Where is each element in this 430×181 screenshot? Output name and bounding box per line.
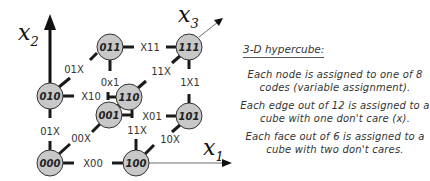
edge-label-110-111: 11X — [151, 66, 171, 77]
svg-text:001: 001 — [99, 110, 120, 121]
svg-text:011: 011 — [100, 42, 121, 53]
edge-label-101-111: 1X1 — [180, 77, 200, 88]
notes-panel: 3-D hypercube: Each node is assigned to … — [240, 38, 430, 156]
svg-text:010: 010 — [40, 91, 61, 102]
x3-arrow-icon — [214, 18, 223, 26]
edge-label-000-001: 00X — [71, 133, 91, 144]
edge-label-001-101: X01 — [142, 111, 162, 122]
x1-axis-label: x1 — [203, 135, 224, 164]
x2-axis: x2 — [18, 14, 56, 83]
edge-label-100-110: 11X — [127, 125, 147, 136]
svg-text:110: 110 — [119, 92, 140, 103]
note-edges: Each edge out of 12 is assigned to a cub… — [240, 99, 430, 125]
node-100: 100 — [123, 150, 149, 176]
node-111: 111 — [176, 34, 202, 60]
x2-axis-label: x2 — [18, 20, 39, 49]
edge-label-001-011: 0x1 — [101, 77, 120, 88]
edge-label-010-011: 01X — [64, 64, 84, 75]
edge-label-000-100: X00 — [83, 158, 103, 169]
note-nodes: Each node is assigned to one of 8 codes … — [240, 68, 430, 94]
edge-label-011-111: X11 — [140, 42, 160, 53]
node-110: 110 — [116, 84, 142, 110]
edge-label-100-101: 10X — [160, 134, 180, 145]
node-010: 010 — [37, 83, 63, 109]
node-011: 011 — [97, 34, 123, 60]
edge-label-010-110: X10 — [81, 91, 101, 102]
svg-text:101: 101 — [179, 111, 200, 122]
note-faces: Each face out of 6 is assigned to a cube… — [240, 130, 430, 156]
svg-text:000: 000 — [40, 158, 61, 169]
node-000: 000 — [37, 150, 63, 176]
x3-axis-label: x3 — [178, 2, 199, 31]
x3-axis: x3 — [178, 2, 223, 37]
svg-text:100: 100 — [126, 158, 147, 169]
edge-label-000-010: 01X — [40, 126, 60, 137]
node-101: 101 — [176, 103, 202, 129]
notes-title: 3-D hypercube: — [243, 43, 324, 58]
svg-text:111: 111 — [179, 42, 200, 53]
node-001: 001 — [96, 102, 122, 128]
x2-arrow-icon — [44, 14, 56, 30]
hypercube-diagram: x2 x1 x3 — [0, 0, 235, 181]
